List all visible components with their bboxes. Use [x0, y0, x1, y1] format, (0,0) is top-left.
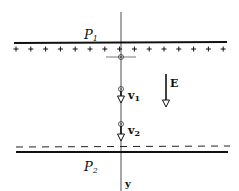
velocity-1-label: v1 [128, 90, 140, 102]
top-plate [14, 42, 227, 43]
top-plate-label: P1 [84, 28, 98, 43]
velocity-2-label: v2 [128, 125, 140, 137]
y-axis-label: y [125, 179, 131, 189]
field-label: E [170, 78, 178, 89]
positive-charges [14, 47, 226, 52]
diagram-canvas [0, 0, 239, 191]
negative-charges [16, 146, 230, 147]
bottom-plate-label: P2 [84, 160, 98, 175]
